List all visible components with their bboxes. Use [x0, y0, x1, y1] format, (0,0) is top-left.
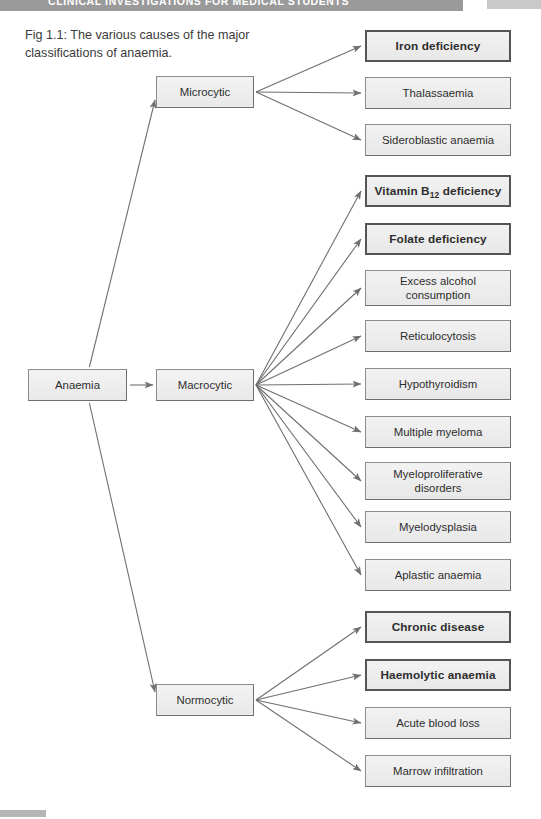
- node-cause-chronic-disease[interactable]: Chronic disease: [365, 611, 511, 643]
- arrow-root-to-normocytic: [89, 403, 155, 692]
- arrow-normocytic-to-acute-blood-loss: [256, 700, 361, 723]
- node-cause-haemolytic-anaemia[interactable]: Haemolytic anaemia: [365, 659, 511, 691]
- node-label: Acute blood loss: [396, 716, 480, 730]
- node-label: Reticulocytosis: [400, 329, 476, 343]
- arrow-macrocytic-to-excess-alcohol-consumption: [256, 288, 361, 385]
- node-label: Myeloproliferative disorders: [370, 467, 506, 495]
- node-label: Iron deficiency: [396, 39, 481, 53]
- arrow-macrocytic-to-multiple-myeloma: [256, 385, 361, 432]
- node-cause-iron-deficiency[interactable]: Iron deficiency: [365, 30, 511, 62]
- node-label: Anaemia: [55, 378, 100, 392]
- node-label: Vitamin B12 deficiency: [375, 184, 502, 199]
- arrow-macrocytic-to-myelodysplasia: [256, 385, 361, 527]
- arrow-microcytic-to-sideroblastic-anaemia: [256, 92, 361, 140]
- node-cause-hypothyroidism[interactable]: Hypothyroidism: [365, 368, 511, 400]
- node-label: Normocytic: [177, 693, 234, 707]
- arrow-microcytic-to-iron-deficiency: [256, 46, 361, 92]
- node-cause-aplastic-anaemia[interactable]: Aplastic anaemia: [365, 559, 511, 591]
- anaemia-classification-diagram: AnaemiaMicrocyticMacrocyticNormocyticIro…: [0, 0, 541, 819]
- arrow-macrocytic-to-hypothyroidism: [256, 384, 361, 385]
- node-cause-myelodysplasia[interactable]: Myelodysplasia: [365, 511, 511, 543]
- node-cause-thalassaemia[interactable]: Thalassaemia: [365, 77, 511, 109]
- node-cause-myeloproliferative-disorders[interactable]: Myeloproliferative disorders: [365, 462, 511, 500]
- node-label: Myelodysplasia: [399, 520, 477, 534]
- node-label: Thalassaemia: [403, 86, 474, 100]
- node-stage-normocytic[interactable]: Normocytic: [156, 684, 254, 716]
- node-cause-reticulocytosis[interactable]: Reticulocytosis: [365, 320, 511, 352]
- arrow-normocytic-to-chronic-disease: [256, 627, 361, 700]
- node-label: Sideroblastic anaemia: [382, 133, 494, 147]
- node-cause-vitamin-b12-deficiency[interactable]: Vitamin B12 deficiency: [365, 175, 511, 207]
- node-root-anaemia[interactable]: Anaemia: [28, 369, 127, 401]
- node-label: Hypothyroidism: [399, 377, 478, 391]
- node-label: Marrow infiltration: [393, 764, 483, 778]
- node-label: Folate deficiency: [389, 232, 486, 246]
- arrow-macrocytic-to-aplastic-anaemia: [256, 385, 361, 575]
- node-label: Multiple myeloma: [394, 425, 483, 439]
- node-cause-folate-deficiency[interactable]: Folate deficiency: [365, 223, 511, 255]
- node-cause-excess-alcohol-consumption[interactable]: Excess alcohol consumption: [365, 270, 511, 306]
- node-label: Haemolytic anaemia: [380, 668, 495, 682]
- arrow-macrocytic-to-vitamin-b12-deficiency: [256, 191, 361, 385]
- arrow-macrocytic-to-reticulocytosis: [256, 336, 361, 385]
- node-label: Excess alcohol consumption: [370, 274, 506, 302]
- arrow-normocytic-to-haemolytic-anaemia: [256, 675, 361, 700]
- node-stage-macrocytic[interactable]: Macrocytic: [156, 369, 254, 401]
- node-label: Macrocytic: [178, 378, 232, 392]
- node-label: Aplastic anaemia: [395, 568, 482, 582]
- arrow-normocytic-to-marrow-infiltration: [256, 700, 361, 771]
- arrow-root-to-microcytic: [89, 100, 155, 367]
- arrow-macrocytic-to-myeloproliferative-disorders: [256, 385, 361, 481]
- arrow-microcytic-to-thalassaemia: [256, 92, 361, 93]
- node-cause-marrow-infiltration[interactable]: Marrow infiltration: [365, 755, 511, 787]
- node-cause-acute-blood-loss[interactable]: Acute blood loss: [365, 707, 511, 739]
- arrow-macrocytic-to-folate-deficiency: [256, 239, 361, 385]
- node-cause-sideroblastic-anaemia[interactable]: Sideroblastic anaemia: [365, 124, 511, 156]
- node-cause-multiple-myeloma[interactable]: Multiple myeloma: [365, 416, 511, 448]
- node-stage-microcytic[interactable]: Microcytic: [156, 76, 254, 108]
- node-label: Chronic disease: [392, 620, 485, 634]
- arrow-layer: [0, 0, 541, 819]
- node-label: Microcytic: [180, 85, 231, 99]
